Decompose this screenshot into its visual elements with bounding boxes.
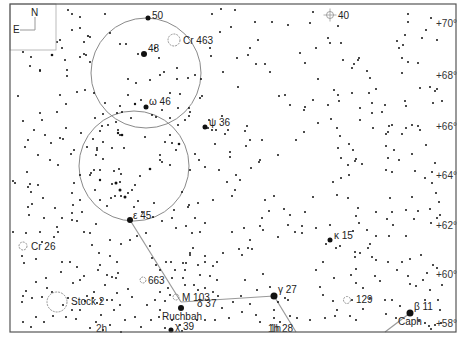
star [211,129,213,131]
object-label: 40 [338,10,350,21]
star [424,322,426,324]
star [355,215,357,217]
star [329,224,331,226]
star [181,191,183,193]
star [309,319,311,321]
star [273,309,275,311]
star [159,291,161,293]
star [111,299,113,301]
star [99,179,101,181]
star [289,104,291,106]
star [401,261,403,263]
object-label: ω 46 [149,96,171,107]
star [159,269,161,271]
star [352,149,354,151]
star [155,264,157,266]
object-label: β 11 [414,301,433,312]
star [362,287,364,289]
star [29,183,31,185]
star [211,13,213,15]
star [27,186,29,188]
star [192,247,194,249]
star [251,248,253,250]
star [133,206,135,208]
star [232,301,234,303]
star [396,269,398,271]
star [294,231,296,233]
star [234,189,236,191]
compass-rose: N E [10,4,56,50]
star [189,169,191,171]
star [99,199,101,201]
star [435,192,437,194]
declination-label: +66° [436,121,457,132]
star [347,197,349,199]
star [419,129,421,131]
star [235,174,237,176]
object-label: χ 39 [175,321,195,332]
star [273,317,275,319]
star [429,86,431,88]
star [127,192,129,194]
star [117,272,119,274]
star [401,72,403,74]
star [236,57,238,59]
star [283,208,285,210]
star [60,271,62,273]
star [125,43,127,45]
star [405,209,407,211]
star [315,227,317,229]
star [273,195,275,197]
star [137,53,139,55]
star [12,231,14,233]
star [375,259,377,261]
star [426,272,428,274]
star [116,112,118,114]
star [194,153,196,155]
star [21,301,23,303]
star [164,327,166,329]
star [429,289,431,291]
star [184,269,186,271]
star [441,284,443,286]
star [398,159,400,161]
star [56,226,58,228]
star [67,9,69,11]
star [35,258,37,260]
star [199,231,201,233]
star [350,274,352,276]
star [39,231,41,233]
star [79,199,81,201]
star [42,197,44,199]
star [407,275,409,277]
star [219,31,221,33]
star [93,92,95,94]
star [158,316,160,318]
object-label: κ 15 [334,230,353,241]
star [17,95,19,97]
star [59,137,61,139]
star [348,174,350,176]
object-label: γ 27 [278,284,297,295]
star [336,309,338,311]
star [436,39,438,41]
star [44,134,46,136]
star [224,133,226,135]
star [75,318,77,320]
star [22,295,24,297]
bright-star [328,238,333,243]
star [204,166,206,168]
star [204,222,206,224]
star [357,207,359,209]
star [324,317,326,319]
star [262,273,264,275]
star [438,201,440,203]
star [56,111,58,113]
star [140,99,142,101]
star [146,304,148,306]
star [169,117,171,119]
star [176,78,178,80]
star [395,317,397,319]
star [287,299,289,301]
star [185,225,187,227]
